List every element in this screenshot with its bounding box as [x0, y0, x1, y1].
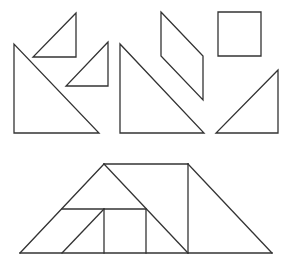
parallelogram [161, 12, 203, 100]
small-triangle-2 [66, 42, 108, 86]
tangram-diagram [0, 0, 286, 264]
trapezoid-assembly [20, 164, 272, 253]
medium-triangle [216, 70, 278, 133]
square [218, 12, 261, 56]
tangram-pieces [14, 12, 278, 133]
small-triangle-1 [33, 13, 76, 57]
assembled-edge [188, 164, 272, 253]
assembled-edge [62, 209, 104, 253]
